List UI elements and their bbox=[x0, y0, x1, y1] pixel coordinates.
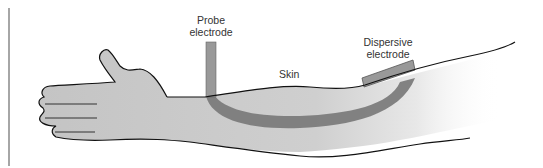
probe-label-line1: Probe bbox=[188, 14, 234, 26]
probe-label-line2: electrode bbox=[188, 26, 234, 38]
dispersive-electrode-label: Dispersive electrode bbox=[358, 36, 418, 60]
probe-electrode bbox=[206, 42, 216, 97]
dispersive-label-line2: electrode bbox=[358, 48, 418, 60]
skin-label: Skin bbox=[279, 68, 299, 80]
probe-electrode-label: Probe electrode bbox=[188, 14, 234, 38]
arm-diagram bbox=[0, 0, 543, 168]
dispersive-label-line1: Dispersive bbox=[358, 36, 418, 48]
